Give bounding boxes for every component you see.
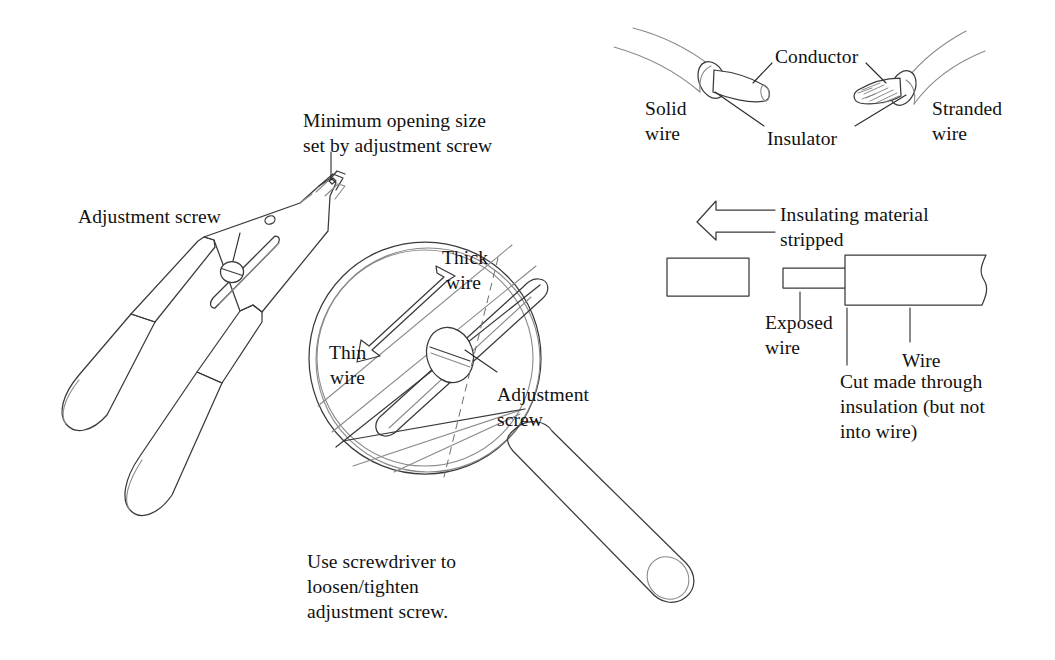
tool-jaw-tip bbox=[300, 171, 345, 203]
caption-line2: loosen/tighten bbox=[307, 574, 419, 599]
label-solid-wire-line1: Solid bbox=[645, 96, 687, 121]
label-thin-wire-line2: wire bbox=[330, 365, 365, 390]
label-stranded-wire-line2: wire bbox=[932, 121, 967, 146]
caption-line3: adjustment screw. bbox=[307, 599, 448, 624]
removed-insulation-piece bbox=[667, 258, 749, 296]
label-minimum-opening-line2: set by adjustment screw bbox=[303, 133, 492, 158]
label-magnified-adjustment-line1: Adjustment bbox=[497, 382, 589, 407]
label-thin-wire-line1: Thin bbox=[329, 340, 366, 365]
label-minimum-opening-line1: Minimum opening size bbox=[303, 108, 486, 133]
magnifier-handle bbox=[508, 422, 698, 608]
label-magnified-adjustment-line2: screw bbox=[497, 407, 543, 432]
tool-adjustment-screw bbox=[221, 262, 244, 283]
caption-line1: Use screwdriver to bbox=[307, 549, 456, 574]
label-exposed-wire-line2: wire bbox=[765, 335, 800, 360]
leader-conductor-solid bbox=[753, 63, 772, 83]
diagram-artwork: .s { fill:none; stroke:#3a3a3a; stroke-w… bbox=[0, 0, 1055, 660]
label-insulator: Insulator bbox=[767, 126, 837, 151]
label-cut-note-line1: Cut made through bbox=[840, 369, 982, 394]
exposed-wire-strip bbox=[783, 268, 847, 288]
label-conductor: Conductor bbox=[775, 44, 858, 69]
tool-jaw-body bbox=[204, 178, 336, 312]
label-adjustment-screw-tool: Adjustment screw bbox=[78, 204, 221, 229]
leader-adjustment-screw bbox=[233, 233, 240, 261]
label-insulating-stripped-line2: stripped bbox=[780, 227, 844, 252]
tool-lower-arm bbox=[125, 305, 262, 515]
label-insulating-stripped-line1: Insulating material bbox=[780, 202, 929, 227]
insulated-wire-body bbox=[845, 255, 987, 305]
wire-stripper-figure: .s { fill:none; stroke:#3a3a3a; stroke-w… bbox=[0, 0, 1055, 660]
leader-conductor-stranded bbox=[866, 63, 886, 83]
label-thick-wire-line1: Thick bbox=[442, 245, 488, 270]
label-cut-note-line3: into wire) bbox=[840, 419, 917, 444]
label-cut-note-line2: insulation (but not bbox=[840, 394, 985, 419]
solid-wire bbox=[614, 28, 770, 102]
stripped-direction-arrow bbox=[697, 201, 775, 240]
label-thick-wire-line2: wire bbox=[446, 270, 481, 295]
label-stranded-wire-line1: Stranded bbox=[932, 96, 1002, 121]
label-solid-wire-line2: wire bbox=[645, 121, 680, 146]
label-exposed-wire-line1: Exposed bbox=[765, 310, 833, 335]
tool-upper-arm bbox=[62, 237, 215, 430]
